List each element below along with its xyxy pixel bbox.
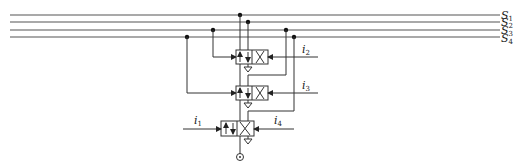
bus-lines	[10, 15, 500, 37]
exhaust-icon	[244, 139, 252, 144]
label-i3: i3	[302, 79, 310, 93]
label-i2: i2	[302, 43, 310, 57]
label-i4: i4	[274, 114, 283, 128]
logic-diagram: S1 S2 S3 S4	[0, 0, 517, 165]
bus-labels: S1 S2 S3 S4	[501, 9, 514, 46]
wires	[187, 15, 294, 154]
exhaust-icon	[244, 67, 252, 72]
exhaust-icon	[244, 103, 252, 108]
output-port-icon	[237, 154, 244, 161]
label-i1: i1	[194, 114, 202, 128]
